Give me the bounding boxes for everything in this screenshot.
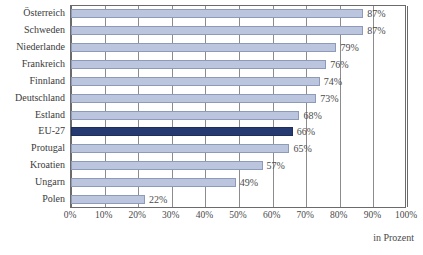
bar-row: 79% [71,40,405,57]
category-label-kroatien: Kroatien [0,157,65,174]
x-tick-label: 100% [395,210,417,220]
value-label: 87% [363,23,385,39]
bar--sterreich [71,9,363,18]
bar-row: 65% [71,141,405,158]
value-label: 73% [316,91,338,107]
x-tick-label: 40% [196,210,213,220]
bar-eu-27 [71,127,293,136]
value-label: 49% [236,175,258,191]
bar-row: 66% [71,124,405,141]
category-label--sterreich: Österreich [0,5,65,22]
plot-area: 87%87%79%76%74%73%68%66%65%57%49%22% [70,5,406,208]
value-label: 87% [363,6,385,22]
value-label: 66% [293,124,315,140]
bar-finnland [71,77,320,86]
bar-deutschland [71,94,316,103]
bar-row: 73% [71,91,405,108]
bar-frankreich [71,60,326,69]
bar-row: 68% [71,108,405,125]
x-tick-label: 0% [64,210,77,220]
value-label: 74% [320,74,342,90]
x-tick-label: 30% [162,210,179,220]
value-label: 22% [145,192,167,208]
bar-niederlande [71,43,336,52]
bar-row: 76% [71,57,405,74]
category-label-finnland: Finnland [0,73,65,90]
x-tick-label: 10% [95,210,112,220]
x-tick-label: 50% [229,210,246,220]
category-label-niederlande: Niederlande [0,39,65,56]
bar-row: 87% [71,23,405,40]
x-tick-label: 60% [263,210,280,220]
x-tick-label: 70% [296,210,313,220]
category-label-estland: Estland [0,107,65,124]
bar-row: 49% [71,175,405,192]
bar-row: 57% [71,158,405,175]
axis-caption: in Prozent [0,232,414,243]
category-label-ungarn: Ungarn [0,174,65,191]
x-tick-label: 20% [128,210,145,220]
value-label: 65% [289,141,311,157]
value-label: 76% [326,57,348,73]
bar-protugal [71,144,289,153]
bar-chart: 87%87%79%76%74%73%68%66%65%57%49%22% Öst… [0,0,423,255]
bar-rows: 87%87%79%76%74%73%68%66%65%57%49%22% [71,6,405,207]
category-label-deutschland: Deutschland [0,90,65,107]
bar-row: 74% [71,74,405,91]
value-label: 79% [336,40,358,56]
bar-kroatien [71,161,263,170]
category-label-eu-27: EU-27 [0,123,65,140]
bar-polen [71,195,145,204]
category-label-polen: Polen [0,191,65,208]
bar-estland [71,111,299,120]
x-tick-label: 80% [330,210,347,220]
category-label-protugal: Protugal [0,140,65,157]
bar-row: 87% [71,6,405,23]
x-axis-ticks: 0%10%20%30%40%50%60%70%80%90%100% [70,210,406,226]
x-tick-label: 90% [364,210,381,220]
bar-ungarn [71,178,236,187]
bar-row: 22% [71,192,405,209]
category-label-frankreich: Frankreich [0,56,65,73]
gridline-100pct [407,6,408,207]
value-label: 68% [299,108,321,124]
bar-schweden [71,26,363,35]
category-label-schweden: Schweden [0,22,65,39]
value-label: 57% [263,158,285,174]
